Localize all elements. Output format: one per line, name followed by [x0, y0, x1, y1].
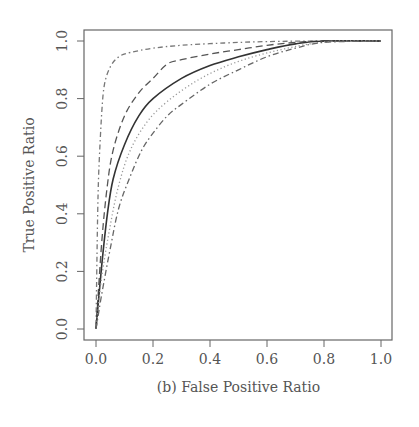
- roc-chart: 0.00.20.40.60.81.0 0.00.20.40.60.81.0 (b…: [0, 0, 419, 427]
- curve-solid: [96, 41, 381, 329]
- roc-curves: [96, 41, 381, 329]
- curve-dashdot-low: [96, 41, 381, 329]
- curve-dotdash-top: [96, 41, 381, 329]
- x-tick-label: 0.0: [85, 351, 107, 367]
- curve-dotted: [96, 41, 381, 329]
- x-tick-label: 0.2: [142, 351, 164, 367]
- y-tick-label: 0.8: [54, 87, 70, 109]
- plot-frame: [84, 30, 392, 340]
- x-tick-label: 1.0: [370, 351, 392, 367]
- x-axis-label: (b) False Positive Ratio: [157, 379, 320, 395]
- curve-dashed: [96, 41, 381, 329]
- x-tick-label: 0.4: [199, 351, 221, 367]
- y-axis-label: True Positive Ratio: [21, 117, 37, 252]
- y-tick-label: 0.2: [54, 260, 70, 282]
- x-tick-label: 0.6: [256, 351, 278, 367]
- y-tick-label: 0.6: [54, 145, 70, 167]
- y-axis-ticks: 0.00.20.40.60.81.0: [54, 30, 84, 340]
- y-tick-label: 0.0: [54, 318, 70, 340]
- x-tick-label: 0.8: [313, 351, 335, 367]
- y-tick-label: 0.4: [54, 203, 70, 225]
- y-tick-label: 1.0: [54, 30, 70, 52]
- x-axis-ticks: 0.00.20.40.60.81.0: [85, 340, 392, 367]
